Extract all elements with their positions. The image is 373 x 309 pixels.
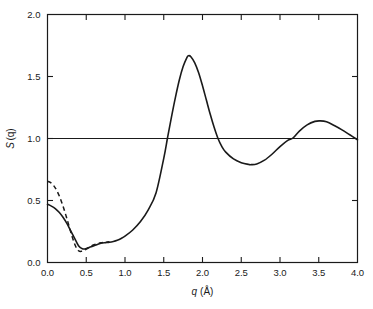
x-axis-tick-labels: 0.00.51.01.52.02.53.03.54.0 <box>41 267 364 278</box>
x-tick-label-4.0: 4.0 <box>351 267 364 278</box>
x-axis-title: q(Å) <box>192 285 214 297</box>
y-tick-label-0.5: 0.5 <box>27 195 40 206</box>
x-tick-label-2.0: 2.0 <box>196 267 209 278</box>
x-tick-label-0.0: 0.0 <box>41 267 54 278</box>
x-tick-label-2.5: 2.5 <box>235 267 248 278</box>
y-tick-label-0.0: 0.0 <box>27 257 40 268</box>
figure-container: 0.00.51.01.52.02.53.03.54.0 0.00.51.01.5… <box>0 0 373 309</box>
y-tick-label-1.5: 1.5 <box>27 71 40 82</box>
x-tick-label-3.5: 3.5 <box>312 267 325 278</box>
y-axis-title: S(q) <box>5 128 16 148</box>
x-tick-label-0.5: 0.5 <box>80 267 93 278</box>
x-tick-label-3.0: 3.0 <box>273 267 286 278</box>
y-tick-label-1.0: 1.0 <box>27 133 40 144</box>
x-tick-label-1.5: 1.5 <box>157 267 170 278</box>
y-tick-label-2.0: 2.0 <box>27 9 40 20</box>
structure-factor-plot: 0.00.51.01.52.02.53.03.54.0 0.00.51.01.5… <box>0 0 373 309</box>
x-tick-label-1.0: 1.0 <box>118 267 131 278</box>
